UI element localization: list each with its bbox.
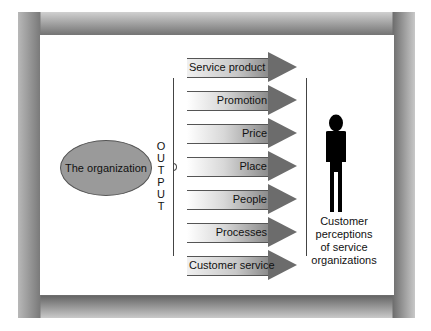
output-letter: U	[154, 188, 168, 200]
arrow-label: Customer service	[189, 258, 275, 272]
arrow-head-icon	[268, 85, 297, 115]
caption-line: organizations	[308, 254, 380, 267]
output-arrow-processes: Processes	[187, 217, 297, 247]
arrow-head-icon	[268, 184, 297, 214]
output-letter: T	[154, 164, 168, 176]
arrow-head-icon	[268, 151, 297, 181]
organization-label: The organization	[65, 162, 147, 174]
output-arrow-service-product: Service product	[187, 52, 297, 82]
caption-line: perceptions	[308, 228, 380, 241]
output-arrow-customer-service: Customer service	[187, 250, 297, 280]
arrow-label: Processes	[216, 225, 267, 239]
output-letter: P	[154, 176, 168, 188]
arrow-head-icon	[268, 118, 297, 148]
output-arrow-place: Place	[187, 151, 297, 181]
organization-node: The organization	[60, 140, 152, 196]
output-arrow-price: Price	[187, 118, 297, 148]
caption-line: of service	[308, 241, 380, 254]
output-letter: O	[154, 140, 168, 152]
right-brace	[306, 78, 307, 256]
output-letter: U	[154, 152, 168, 164]
person-silhouette-icon	[322, 114, 350, 214]
caption-line: Customer	[308, 215, 380, 228]
customer-perceptions-caption: Customer perceptions of service organiza…	[308, 215, 380, 267]
arrow-head-icon	[268, 52, 297, 82]
arrow-label: Place	[239, 159, 267, 173]
output-arrow-people: People	[187, 184, 297, 214]
arrow-head-icon	[268, 217, 297, 247]
arrow-label: Promotion	[217, 93, 267, 107]
arrow-label: Service product	[189, 60, 265, 74]
arrow-label: Price	[242, 126, 267, 140]
arrow-label: People	[233, 192, 267, 206]
output-letter: T	[154, 200, 168, 212]
output-arrow-promotion: Promotion	[187, 85, 297, 115]
output-vertical-label: O U T P U T	[154, 140, 168, 212]
